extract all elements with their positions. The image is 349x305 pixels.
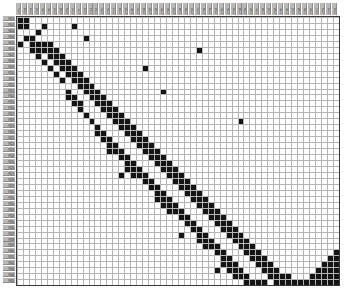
column-tick-label: C17 — [111, 3, 116, 15]
matrix-plot-area[interactable] — [16, 16, 340, 286]
row-tick-label: R29 — [3, 183, 15, 188]
column-tick-label: C31 — [195, 3, 200, 15]
column-tick-label: C30 — [189, 3, 194, 15]
row-tick-label: R17 — [3, 111, 15, 116]
column-tick-label: C39 — [242, 3, 247, 15]
row-tick-label: R40 — [3, 248, 15, 253]
column-tick-label: C28 — [177, 3, 182, 15]
row-tick-label: R45 — [3, 278, 15, 283]
column-tick-label: C37 — [231, 3, 236, 15]
column-tick-label: C10 — [70, 3, 75, 15]
row-tick-label: R03 — [3, 28, 15, 33]
column-tick-label: C45 — [278, 3, 283, 15]
row-tick-label: R11 — [3, 76, 15, 81]
column-tick-label: C33 — [207, 3, 212, 15]
column-tick-label: C27 — [171, 3, 176, 15]
row-tick-label: R05 — [3, 40, 15, 45]
row-tick-label: R32 — [3, 201, 15, 206]
column-tick-label: C25 — [159, 3, 164, 15]
row-tick-label: R43 — [3, 266, 15, 271]
column-tick-label: C23 — [147, 3, 152, 15]
column-tick-label: C42 — [260, 3, 265, 15]
row-tick-label: R37 — [3, 231, 15, 236]
row-tick-label: R02 — [3, 22, 15, 27]
row-tick-label: R24 — [3, 153, 15, 158]
row-tick-label: R30 — [3, 189, 15, 194]
column-tick-label: C51 — [314, 3, 319, 15]
matrix-figure: C01C02C03C04C05C06C07C08C09C10C11C12C13C… — [0, 0, 349, 305]
column-tick-label: C52 — [320, 3, 325, 15]
column-tick-label: C22 — [141, 3, 146, 15]
row-tick-label: R12 — [3, 82, 15, 87]
column-tick-label: C40 — [248, 3, 253, 15]
row-tick-label: R07 — [3, 52, 15, 57]
column-tick-label: C03 — [28, 3, 33, 15]
row-tick-label: R41 — [3, 254, 15, 259]
column-tick-label: C53 — [326, 3, 331, 15]
column-tick-label: C05 — [40, 3, 45, 15]
row-tick-label: R34 — [3, 213, 15, 218]
row-tick-label: R27 — [3, 171, 15, 176]
column-tick-label: C54 — [332, 3, 337, 15]
row-tick-label: R14 — [3, 93, 15, 98]
column-tick-label: C08 — [58, 3, 63, 15]
row-tick-label: R26 — [3, 165, 15, 170]
column-tick-label: C19 — [123, 3, 128, 15]
row-tick-label: R04 — [3, 34, 15, 39]
row-tick-label: R35 — [3, 219, 15, 224]
column-tick-label: C48 — [296, 3, 301, 15]
column-tick-label: C34 — [213, 3, 218, 15]
column-tick-label: C06 — [46, 3, 51, 15]
row-tick-label: R08 — [3, 58, 15, 63]
row-tick-label: R31 — [3, 195, 15, 200]
column-tick-label: C50 — [308, 3, 313, 15]
row-tick-label: R19 — [3, 123, 15, 128]
column-tick-label: C12 — [82, 3, 87, 15]
column-tick-label: C15 — [99, 3, 104, 15]
row-tick-label: R16 — [3, 105, 15, 110]
column-tick-label: C41 — [254, 3, 259, 15]
row-tick-label: R15 — [3, 99, 15, 104]
column-tick-label: C14 — [93, 3, 98, 15]
row-tick-label: R09 — [3, 64, 15, 69]
column-tick-label: C35 — [219, 3, 224, 15]
column-tick-label: C32 — [201, 3, 206, 15]
row-tick-label: R42 — [3, 260, 15, 265]
column-tick-label: C20 — [129, 3, 134, 15]
row-tick-label: R44 — [3, 272, 15, 277]
column-tick-label: C11 — [76, 3, 81, 15]
row-tick-label: R36 — [3, 225, 15, 230]
column-tick-label: C26 — [165, 3, 170, 15]
column-tick-label: C36 — [225, 3, 230, 15]
column-tick-label: C16 — [105, 3, 110, 15]
row-label-axis: R01R02R03R04R05R06R07R08R09R10R11R12R13R… — [3, 16, 16, 284]
column-tick-label: C43 — [266, 3, 271, 15]
row-tick-label: R18 — [3, 117, 15, 122]
row-tick-label: R01 — [3, 16, 15, 21]
row-tick-label: R06 — [3, 46, 15, 51]
row-tick-label: R33 — [3, 207, 15, 212]
column-tick-label: C02 — [22, 3, 27, 15]
row-tick-label: R10 — [3, 70, 15, 75]
column-tick-label: C24 — [153, 3, 158, 15]
row-tick-label: R25 — [3, 159, 15, 164]
row-tick-label: R21 — [3, 135, 15, 140]
column-tick-label: C29 — [183, 3, 188, 15]
column-tick-label: C47 — [290, 3, 295, 15]
column-tick-label: C09 — [64, 3, 69, 15]
row-tick-label: R28 — [3, 177, 15, 182]
column-tick-label: C46 — [284, 3, 289, 15]
row-tick-label: R39 — [3, 242, 15, 247]
column-tick-label: C01 — [16, 3, 21, 15]
row-tick-label: R20 — [3, 129, 15, 134]
column-tick-label: C21 — [135, 3, 140, 15]
column-tick-label: C07 — [52, 3, 57, 15]
column-label-axis: C01C02C03C04C05C06C07C08C09C10C11C12C13C… — [16, 3, 338, 16]
column-tick-label: C49 — [302, 3, 307, 15]
column-tick-label: C04 — [34, 3, 39, 15]
row-tick-label: R22 — [3, 141, 15, 146]
row-tick-label: R23 — [3, 147, 15, 152]
column-tick-label: C44 — [272, 3, 277, 15]
matrix-grid-canvas[interactable] — [17, 17, 339, 285]
column-tick-label: C18 — [117, 3, 122, 15]
